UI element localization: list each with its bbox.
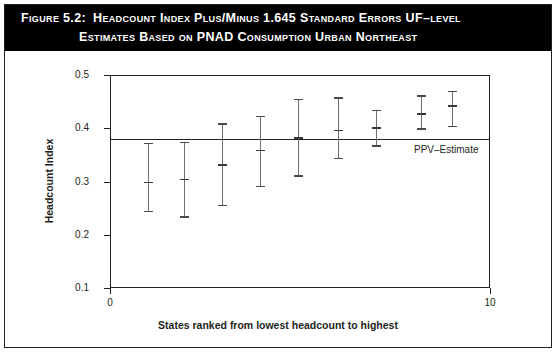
y-axis-tick-label: 0.1 <box>55 283 89 293</box>
error-bar-upper-cap <box>334 97 343 98</box>
plot-area: 0.10.20.30.40.5010PPV–Estimate Headcount… <box>5 51 551 347</box>
figure-title-line-1: Figure 5.2:Headcount Index Plus/Minus 1.… <box>15 9 541 28</box>
y-axis-tick-label: 0.3 <box>55 177 89 187</box>
x-axis-tick <box>110 288 111 294</box>
y-axis-tick-label: 0.2 <box>55 230 89 240</box>
error-bar-center-marker <box>218 164 227 166</box>
error-bar-lower-cap <box>294 175 303 176</box>
error-bar-lower-cap <box>372 145 381 146</box>
error-bar-center-marker <box>448 105 457 107</box>
error-bar-center-marker <box>180 179 189 181</box>
error-bar-upper-cap <box>294 99 303 100</box>
error-bar-point <box>371 51 382 288</box>
figure-title-text-1: Headcount Index Plus/Minus 1.645 Standar… <box>93 11 461 25</box>
error-bar-point <box>293 51 304 288</box>
y-axis-tick <box>104 75 110 76</box>
error-bar-upper-cap <box>448 91 457 92</box>
y-axis-tick-label: 0.5 <box>55 70 89 80</box>
figure-number-label: Figure 5.2: <box>21 11 93 25</box>
error-bar-center-marker <box>144 182 153 184</box>
error-bar-point <box>143 51 154 288</box>
error-bar-lower-cap <box>417 128 426 129</box>
x-axis-tick <box>490 288 491 294</box>
error-bar-upper-cap <box>180 142 189 143</box>
x-axis-title: States ranked from lowest headcount to h… <box>5 319 551 331</box>
error-bar-lower-cap <box>448 126 457 127</box>
x-axis-tick-label: 0 <box>90 297 130 308</box>
error-bar-upper-cap <box>144 143 153 144</box>
error-bar-point <box>416 51 427 288</box>
error-bar-point <box>217 51 228 288</box>
x-axis-tick-label: 10 <box>470 297 510 308</box>
error-bar-point <box>333 51 344 288</box>
error-bar-lower-cap <box>218 205 227 206</box>
error-bar-lower-cap <box>334 158 343 159</box>
error-bar-line <box>338 97 339 157</box>
error-bar-upper-cap <box>372 110 381 111</box>
figure-title-banner: Figure 5.2:Headcount Index Plus/Minus 1.… <box>5 5 551 51</box>
error-bar-point <box>255 51 266 288</box>
error-bar-line <box>421 95 422 128</box>
error-bar-lower-cap <box>144 211 153 212</box>
y-axis-tick-label: 0.4 <box>55 123 89 133</box>
error-bar-lower-cap <box>180 216 189 217</box>
figure-container: Figure 5.2:Headcount Index Plus/Minus 1.… <box>0 0 556 352</box>
error-bar-lower-cap <box>256 186 265 187</box>
error-bar-point <box>179 51 190 288</box>
y-axis-tick <box>104 128 110 129</box>
error-bar-center-marker <box>334 130 343 132</box>
y-axis-tick <box>104 235 110 236</box>
error-bar-center-marker <box>372 127 381 129</box>
error-bar-center-marker <box>294 137 303 139</box>
error-bar-point <box>447 51 458 288</box>
error-bar-center-marker <box>256 150 265 152</box>
y-axis-title: Headcount Index <box>43 139 55 224</box>
error-bar-center-marker <box>417 113 426 115</box>
figure-title-line-2: Estimates Based on PNAD Consumption Urba… <box>15 28 541 47</box>
error-bar-upper-cap <box>256 116 265 117</box>
error-bar-line <box>148 143 149 211</box>
error-bar-upper-cap <box>218 123 227 124</box>
error-bar-upper-cap <box>417 95 426 96</box>
error-bar-line <box>452 91 453 126</box>
y-axis-tick <box>104 182 110 183</box>
